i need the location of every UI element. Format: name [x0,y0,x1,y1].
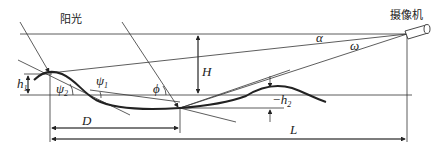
psi2-arc [70,84,73,95]
phi-label: ϕ [153,81,160,96]
neg-h2-label: −h2 [272,92,291,109]
tangent-slope [90,90,180,102]
L-label: L [289,122,297,137]
H-label: H [201,64,212,79]
sight-line-omega [180,34,407,108]
wave-reflection-geometry-diagram: 阳光 摄像机 α ω H ϕ h1 ψ2 ψ1 −h2 D L [0,0,436,151]
camera-label: 摄像机 [390,8,423,22]
reflect-line [180,108,236,122]
omega-label: ω [350,38,359,53]
tangent-crest [18,60,130,115]
D-label: D [81,113,92,128]
camera-icon [405,25,430,40]
h1-label: h1 [17,76,28,93]
sunlight-label: 阳光 [60,12,82,26]
psi1-label: ψ1 [96,73,108,90]
sun-ray-1 [20,22,49,72]
alpha-label: α [316,30,324,45]
phi-arc [163,86,166,95]
